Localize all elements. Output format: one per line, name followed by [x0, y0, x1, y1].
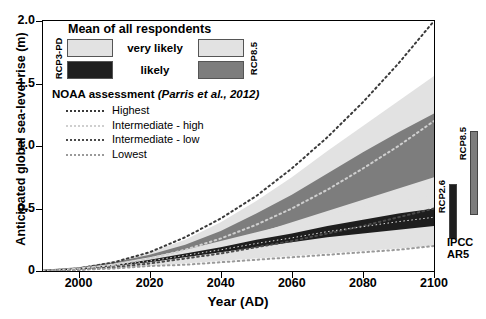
legend-row-likely: likely [52, 61, 302, 81]
legend-swatch-left-very-likely [67, 39, 113, 57]
noaa-title-text: NOAA assessment [52, 88, 154, 100]
y-tick-label: 1.0 [18, 139, 35, 152]
noaa-dash-sample [66, 139, 104, 141]
noaa-legend-item: Lowest [52, 148, 292, 163]
x-tick-mark [79, 272, 80, 278]
noaa-dash-sample [66, 125, 104, 127]
noaa-item-label: Highest [112, 104, 149, 116]
legend-swatch-left-likely [67, 61, 113, 79]
noaa-item-label: Lowest [112, 148, 147, 160]
x-tick-label: 2100 [404, 276, 464, 290]
x-tick-label: 2020 [120, 276, 180, 290]
noaa-dash-sample [66, 154, 104, 156]
noaa-item-label: Intermediate - high [112, 119, 204, 131]
x-tick-mark [292, 272, 293, 278]
noaa-legend-item: Highest [52, 104, 292, 119]
x-tick-label: 2040 [191, 276, 251, 290]
x-tick-label: 2060 [262, 276, 322, 290]
sea-level-rise-chart: Anticipated global sea-level rise (m) 00… [0, 0, 486, 319]
y-tick-label: 1.5 [18, 77, 35, 90]
x-tick-mark [363, 272, 364, 278]
x-tick-mark [434, 272, 435, 278]
noaa-dash-sample [66, 110, 104, 112]
legend-label-likely: likely [114, 61, 196, 79]
noaa-legend-item: Intermediate - high [52, 119, 292, 134]
x-tick-mark [221, 272, 222, 278]
x-tick-label: 2080 [333, 276, 393, 290]
legend: Mean of all respondents RCP3-PD RCP8.5 v… [52, 22, 302, 83]
ipcc-caption-line1: IPCC [447, 236, 473, 248]
legend-row-very-likely: very likely [52, 39, 302, 59]
legend-label-very-likely: very likely [114, 39, 196, 57]
x-axis-title: Year (AD) [168, 294, 308, 309]
legend-swatch-right-likely [198, 61, 244, 79]
x-tick-label: 2000 [49, 276, 109, 290]
legend-swatch-right-very-likely [198, 39, 244, 57]
ipcc-bar-label: RCP8.5 [457, 127, 468, 160]
noaa-item-label: Intermediate - low [112, 133, 199, 145]
ipcc-bar-label: RCP2.6 [436, 180, 447, 213]
x-tick-mark [150, 272, 151, 278]
ipcc-bar-rcp2-6 [449, 184, 457, 239]
noaa-legend-items: HighestIntermediate - highIntermediate -… [52, 104, 292, 162]
noaa-legend-title: NOAA assessment (Parris et al., 2012) [52, 88, 292, 100]
noaa-citation: (Parris et al., 2012) [158, 88, 260, 100]
y-tick-label: 0 [28, 264, 35, 277]
legend-title: Mean of all respondents [68, 22, 302, 36]
noaa-legend-item: Intermediate - low [52, 133, 292, 148]
ipcc-bar-rcp8-5 [470, 131, 478, 215]
ipcc-ar5-caption: IPCC AR5 [447, 236, 473, 260]
noaa-legend: NOAA assessment (Parris et al., 2012) Hi… [52, 88, 292, 162]
y-tick-label: 2.0 [18, 14, 35, 27]
ipcc-caption-line2: AR5 [447, 248, 473, 260]
y-tick-label: 0.5 [18, 202, 35, 215]
